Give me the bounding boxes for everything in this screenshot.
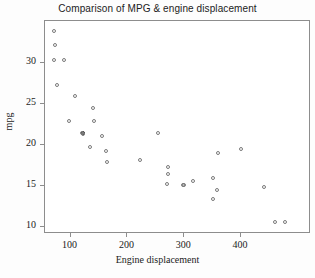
y-axis-tick (40, 62, 44, 63)
data-point (52, 29, 56, 33)
x-axis-tick (126, 233, 127, 237)
data-point (80, 131, 84, 135)
data-point (166, 165, 170, 169)
data-point (104, 149, 108, 153)
data-point (216, 151, 220, 155)
data-point (262, 185, 266, 189)
data-point (73, 94, 77, 98)
y-axis-tick-label: 15 (8, 178, 36, 189)
data-point (52, 58, 56, 62)
x-axis-tick (183, 233, 184, 237)
plot-frame (44, 20, 310, 233)
data-point (182, 183, 186, 187)
x-axis-tick-label: 100 (50, 239, 90, 250)
data-point (88, 145, 92, 149)
data-point (215, 188, 219, 192)
plot-area (45, 21, 309, 232)
data-point (239, 147, 243, 151)
data-point (138, 158, 142, 162)
y-axis-tick-label: 30 (8, 55, 36, 66)
y-axis-tick (40, 144, 44, 145)
y-axis-tick (40, 185, 44, 186)
data-point (211, 176, 215, 180)
data-point (283, 220, 287, 224)
x-axis-tick-label: 200 (106, 239, 146, 250)
data-point (67, 119, 71, 123)
data-point (53, 43, 57, 47)
data-point (55, 83, 59, 87)
x-axis-label: Engine displacement (0, 254, 315, 265)
y-axis-tick (40, 103, 44, 104)
data-point (273, 220, 277, 224)
y-axis-tick (40, 226, 44, 227)
x-axis-tick-label: 300 (163, 239, 203, 250)
scatter-plot-figure: Comparison of MPG & engine displacement … (0, 0, 315, 278)
x-axis-tick (70, 233, 71, 237)
chart-title: Comparison of MPG & engine displacement (0, 3, 315, 14)
x-axis-tick-label: 400 (220, 239, 260, 250)
data-point (105, 160, 109, 164)
data-point (211, 197, 215, 201)
data-point (62, 58, 66, 62)
data-point (91, 106, 95, 110)
data-point (166, 172, 170, 176)
y-axis-tick-label: 10 (8, 219, 36, 230)
data-point (191, 179, 195, 183)
y-axis-label: mpg (3, 102, 14, 142)
data-point (165, 182, 169, 186)
x-axis-tick (240, 233, 241, 237)
data-point (156, 131, 160, 135)
data-point (92, 119, 96, 123)
data-point (100, 134, 104, 138)
